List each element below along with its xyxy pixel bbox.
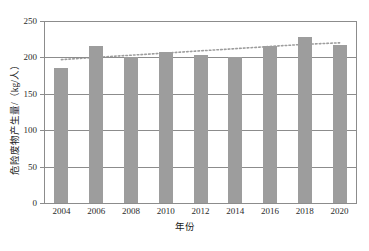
x-axis-tick-label: 2010 bbox=[157, 206, 175, 216]
y-axis-tick bbox=[40, 130, 44, 131]
y-axis-tick bbox=[40, 203, 44, 204]
x-axis-tick-label: 2012 bbox=[192, 206, 210, 216]
bar bbox=[159, 52, 173, 203]
y-axis-tick-label: 200 bbox=[24, 53, 38, 62]
plot-area: 050100150200250 bbox=[44, 21, 357, 203]
y-axis-tick bbox=[40, 167, 44, 168]
x-axis-tick-label: 2020 bbox=[331, 206, 349, 216]
y-axis-tick bbox=[40, 94, 44, 95]
x-axis-tick-label: 2004 bbox=[52, 206, 70, 216]
y-axis-tick-label: 250 bbox=[24, 17, 38, 26]
x-axis-tick-label: 2016 bbox=[261, 206, 279, 216]
bar bbox=[333, 45, 347, 203]
y-axis-tick-label: 100 bbox=[24, 126, 38, 135]
gridline bbox=[44, 21, 357, 22]
bar bbox=[54, 68, 68, 203]
bar bbox=[228, 57, 242, 203]
bar bbox=[89, 46, 103, 203]
x-axis-tick-label: 2018 bbox=[296, 206, 314, 216]
x-axis-line bbox=[44, 203, 357, 204]
x-axis-tick-label: 2014 bbox=[226, 206, 244, 216]
bar bbox=[263, 46, 277, 203]
chart-container: 050100150200250 危险废物产生量/（kg/人） 年份 200420… bbox=[0, 0, 369, 251]
bar bbox=[194, 55, 208, 204]
bar bbox=[298, 37, 312, 203]
y-axis-tick bbox=[40, 21, 44, 22]
x-axis-tick-label: 2006 bbox=[87, 206, 105, 216]
bar bbox=[124, 57, 138, 203]
y-axis-tick-label: 50 bbox=[28, 162, 37, 171]
y-axis-title: 危险废物产生量/（kg/人） bbox=[10, 43, 21, 193]
y-axis-tick-label: 150 bbox=[24, 89, 38, 98]
y-axis-tick bbox=[40, 57, 44, 58]
x-axis-tick-label: 2008 bbox=[122, 206, 140, 216]
y-axis-tick-label: 0 bbox=[33, 199, 38, 208]
x-axis-title: 年份 bbox=[0, 222, 369, 233]
